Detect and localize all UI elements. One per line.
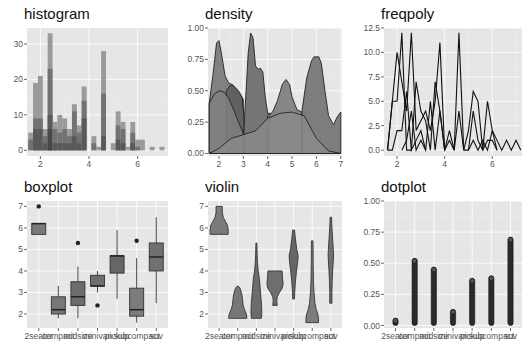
panel-title: histogram <box>24 5 90 22</box>
dot-stack <box>489 276 494 326</box>
y-tick-label: 0.75 <box>363 227 380 237</box>
box-outlier <box>37 204 41 208</box>
dot-top <box>451 310 456 315</box>
y-tick-label: 3 <box>18 287 23 297</box>
y-tick-label: 0.00 <box>363 321 380 331</box>
y-tick-label: 5 <box>18 244 23 254</box>
box-outlier <box>134 239 138 243</box>
y-tick-label: 0.0 <box>368 145 380 155</box>
y-tick-label: 7.5 <box>368 72 380 82</box>
histogram-bar <box>140 140 145 151</box>
x-tick-label: suv <box>324 331 338 341</box>
panel-title: dotplot <box>381 178 427 195</box>
histogram-bar <box>101 136 106 150</box>
x-tick-label: 5 <box>290 159 295 169</box>
dot-top <box>393 318 398 323</box>
y-tick-label: 1.00 <box>363 196 380 206</box>
y-tick-label: 0 <box>18 145 23 155</box>
dot-top <box>412 259 417 264</box>
histogram-bar <box>130 143 135 150</box>
box-body <box>91 275 105 286</box>
x-tick-label: 6 <box>490 159 495 169</box>
y-tick-label: 7 <box>18 201 23 211</box>
dot-stack <box>431 267 436 326</box>
y-tick-label: 30 <box>14 39 24 49</box>
y-tick-label: 0.00 <box>187 148 204 158</box>
histogram-bar <box>38 129 43 150</box>
box-outlier <box>76 241 80 245</box>
histogram-bar <box>28 140 33 151</box>
y-tick-label: 5 <box>199 244 204 254</box>
y-tick-label: 0.25 <box>187 117 204 127</box>
box-body <box>110 256 124 273</box>
y-tick-label: 0.75 <box>187 54 204 64</box>
dot-stack <box>470 278 475 325</box>
histogram-bar <box>43 143 48 150</box>
x-tick-label: 6 <box>135 159 140 169</box>
y-tick-label: 4 <box>199 266 204 276</box>
histogram-bar <box>48 129 53 150</box>
dot-stack <box>508 237 513 325</box>
y-tick-label: 10.0 <box>363 47 380 57</box>
x-tick-label: 2 <box>395 159 400 169</box>
dot-stack <box>412 258 417 325</box>
box-body <box>71 282 85 306</box>
y-tick-label: 6 <box>18 223 23 233</box>
panel-title: density <box>205 5 253 22</box>
y-tick-label: 2.5 <box>368 121 380 131</box>
y-tick-label: 20 <box>14 74 24 84</box>
x-tick-label: suv <box>150 331 164 341</box>
x-tick-label: 4 <box>265 159 270 169</box>
histogram-bar <box>67 143 72 150</box>
y-tick-label: 2 <box>199 309 204 319</box>
y-tick-label: 0.50 <box>187 86 204 96</box>
y-tick-label: 6 <box>199 223 204 233</box>
dot-top <box>432 267 437 272</box>
y-tick-label: 4 <box>18 266 23 276</box>
box-body <box>32 224 46 235</box>
y-tick-label: 3 <box>199 287 204 297</box>
y-tick-label: 12.5 <box>363 23 380 33</box>
x-tick-label: 2 <box>217 159 222 169</box>
x-tick-label: 4 <box>442 159 447 169</box>
histogram-bar <box>53 143 58 150</box>
histogram-bar <box>57 143 62 150</box>
histogram-bar <box>116 140 121 151</box>
x-tick-label: 3 <box>241 159 246 169</box>
histogram-bar <box>125 147 130 151</box>
y-tick-label: 7 <box>199 201 204 211</box>
panel-title: violin <box>205 178 239 195</box>
y-tick-label: 2 <box>18 309 23 319</box>
histogram-bar <box>33 129 38 150</box>
y-tick-label: 1.00 <box>187 23 204 33</box>
panel-title: boxplot <box>24 178 73 195</box>
freqpoly-panel: freqpoly0.02.55.07.510.012.5246 <box>363 5 522 169</box>
box-body <box>130 288 144 316</box>
histogram-bar <box>135 147 140 151</box>
histogram-bar <box>62 143 67 150</box>
x-tick-label: 6 <box>314 159 319 169</box>
histogram-bar <box>77 143 82 150</box>
dot-top <box>489 276 494 281</box>
y-tick-label: 0.50 <box>363 258 380 268</box>
x-tick-label: 4 <box>87 159 92 169</box>
box-body <box>51 297 65 314</box>
histogram-bar <box>111 143 116 150</box>
y-tick-label: 10 <box>14 110 24 120</box>
histogram-bar <box>96 147 101 151</box>
violin-panel: violin2345672seatercompactmidsizeminivan… <box>199 178 342 341</box>
histogram-bar <box>150 147 155 151</box>
histogram-bar <box>82 118 87 150</box>
box-outlier <box>95 303 99 307</box>
density-panel: density0.000.250.500.751.00234567 <box>187 5 343 169</box>
dotplot-panel: dotplot0.000.250.500.751.002seatercompac… <box>363 178 522 341</box>
boxplot-panel: boxplot2345672seatercompactmidsizeminiva… <box>18 178 168 341</box>
histogram-bar <box>159 147 164 151</box>
histogram-bar <box>121 143 126 150</box>
histogram-panel: histogram0102030246 <box>14 5 168 169</box>
histogram-bar <box>72 136 77 150</box>
dot-top <box>470 278 475 283</box>
histogram-bar <box>91 143 96 150</box>
chart-grid: histogram0102030246 density0.000.250.500… <box>0 0 530 350</box>
x-tick-label: 7 <box>338 159 343 169</box>
